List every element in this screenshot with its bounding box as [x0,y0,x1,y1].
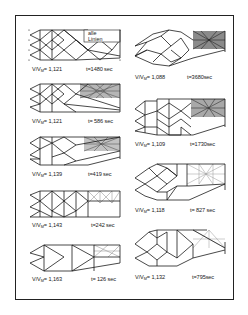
truss-diagram-L5 [28,243,122,273]
truss-diagram-L4 [28,189,122,219]
time-label: t= 586 sec [88,118,113,124]
annotation-alle-linien: alle Linien [88,31,102,42]
time-label: t=3680sec [187,74,212,80]
truss-diagram-R1 [133,28,227,72]
time-label: t=795sec [192,274,214,280]
ratio-label: V/VM= 1,109 [135,141,165,148]
truss-diagram-L1 [28,28,122,62]
time-label: t= 827 sec [190,207,215,213]
time-label: t=242 sec [91,222,115,228]
time-label: t=1730sec [190,141,215,147]
time-label: t= 126 sec [91,276,116,282]
truss-diagram-R4 [133,228,227,270]
ratio-label: V/VM= 1,139 [32,171,62,178]
annotation-line2: Linien [88,37,102,43]
truss-diagram-L3 [28,135,122,167]
truss-diagram-L2 [28,82,122,114]
time-label: t=1480 sec [86,66,113,72]
ratio-label: V/VM= 1,088 [135,74,165,81]
ratio-label: V/VM= 1,118 [135,207,165,214]
truss-diagram-R2 [133,97,227,139]
truss-diagram-R3 [133,162,227,204]
time-label: t=419 sec [88,171,112,177]
ratio-label: V/VM= 1,121 [32,118,62,125]
ratio-label: V/VM= 1,163 [32,276,62,283]
ratio-label: V/VM= 1,132 [135,274,165,281]
ratio-label: V/VM= 1,143 [32,222,62,229]
ratio-label: V/VM= 1,121 [32,66,62,73]
